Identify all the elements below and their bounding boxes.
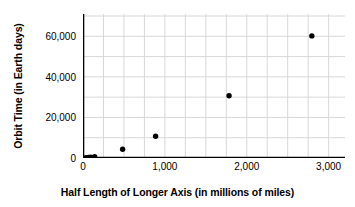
x-tick-label: 3,000 — [316, 161, 341, 172]
x-tick-label: 2,000 — [234, 161, 259, 172]
x-axis-tick-labels: 01,0002,0003,000 — [0, 0, 355, 207]
x-tick-label: 0 — [80, 161, 86, 172]
x-tick-label: 1,000 — [152, 161, 177, 172]
x-axis-title: Half Length of Longer Axis (in millions … — [0, 186, 355, 198]
scatter-chart: Orbit Time (in Earth days) 020,00040,000… — [0, 0, 355, 207]
